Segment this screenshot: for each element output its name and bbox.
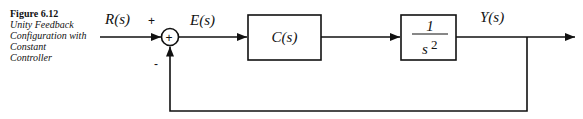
summing-plus-symbol: +	[166, 31, 173, 45]
block-diagram: R(s) + + E(s) C(s) 1 s 2 Y(s) -	[0, 0, 583, 119]
controller-block: C(s)	[248, 15, 321, 60]
summing-junction: +	[162, 29, 179, 46]
plant-exponent: 2	[431, 37, 438, 52]
error-signal-label: E(s)	[189, 12, 215, 29]
plus-sign-label: +	[148, 14, 155, 28]
controller-label: C(s)	[272, 29, 298, 46]
plant-block: 1 s 2	[401, 15, 456, 60]
input-signal-label: R(s)	[104, 11, 130, 28]
plant-denominator: s	[422, 41, 428, 57]
feedback-path	[170, 37, 527, 111]
output-signal-label: Y(s)	[480, 9, 504, 26]
minus-sign-label: -	[154, 57, 158, 71]
plant-numerator: 1	[426, 18, 434, 34]
